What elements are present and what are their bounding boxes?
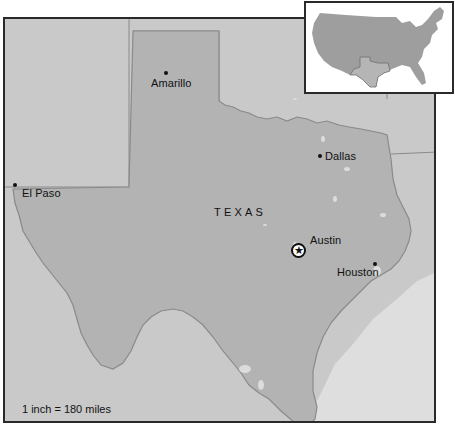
city-label-houston: Houston	[337, 266, 379, 278]
state-label-texas: TEXAS	[214, 206, 266, 218]
capital-marker-austin: ★	[291, 243, 306, 258]
city-label-dallas: Dallas	[325, 150, 356, 162]
map-scale: 1 inch = 180 miles	[22, 403, 111, 415]
city-dot-amarillo	[164, 71, 168, 75]
city-label-el-paso: El Paso	[22, 187, 61, 199]
city-label-austin: Austin	[310, 234, 341, 246]
us-locator-inset	[304, 1, 454, 94]
star-icon: ★	[294, 245, 304, 256]
city-dot-el-paso	[13, 183, 17, 187]
city-dot-dallas	[318, 154, 322, 158]
us-outline	[306, 3, 452, 92]
city-label-amarillo: Amarillo	[151, 77, 192, 89]
